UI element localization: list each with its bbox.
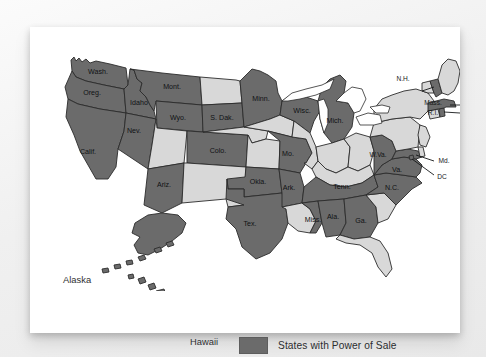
label-va: Va. — [392, 166, 402, 174]
map-legend: States with Power of Sale — [239, 337, 397, 354]
state-nj[interactable] — [418, 125, 430, 147]
label-wash: Wash. — [88, 68, 108, 76]
us-map-container: Wash. Oreg. Idaho Mont. Wyo. Calif. Nev.… — [30, 27, 460, 291]
label-mo: Mo. — [282, 150, 294, 158]
label-ariz: Ariz. — [157, 181, 171, 189]
figure-card-inner: Wash. Oreg. Idaho Mont. Wyo. Calif. Nev.… — [30, 27, 460, 333]
label-miss: Miss. — [305, 216, 322, 224]
us-choropleth-map: Wash. Oreg. Idaho Mont. Wyo. Calif. Nev.… — [30, 27, 460, 291]
label-oreg: Oreg. — [83, 89, 101, 97]
figure-card: Wash. Oreg. Idaho Mont. Wyo. Calif. Nev.… — [30, 27, 460, 333]
label-mass: Mass. — [424, 99, 442, 106]
label-ala: Ala. — [327, 213, 339, 221]
legend-swatch-icon — [239, 337, 268, 354]
label-wisc: Wisc. — [293, 107, 310, 115]
label-md: Md. — [439, 157, 450, 164]
label-ga: Ga. — [355, 217, 366, 225]
alaska-inset-label: Alaska — [63, 274, 91, 285]
lake-ontario — [370, 105, 390, 113]
leader-line-ri — [444, 112, 460, 113]
label-ark: Ark. — [283, 184, 296, 192]
label-minn: Minn. — [252, 95, 269, 103]
hawaii-islands — [128, 274, 173, 291]
lake-erie-ontario — [356, 113, 382, 125]
state-nd[interactable] — [200, 77, 242, 105]
label-mont: Mont. — [163, 83, 181, 91]
state-fl[interactable] — [336, 235, 392, 277]
label-calif: Calif. — [80, 148, 96, 156]
label-okla: Okla. — [250, 178, 267, 186]
label-dc: DC — [437, 173, 447, 180]
label-tex: Tex. — [243, 220, 256, 228]
legend-label: States with Power of Sale — [278, 340, 397, 351]
label-colo: Colo. — [210, 147, 227, 155]
label-ri: R.I. — [428, 109, 438, 116]
label-mich: Mich. — [327, 117, 344, 125]
label-tenn: Tenn. — [333, 183, 350, 191]
label-wva: W.Va. — [369, 151, 386, 158]
state-dc[interactable] — [409, 155, 414, 160]
label-nc: N.C. — [385, 184, 399, 192]
label-nev: Nev. — [127, 127, 141, 135]
state-ri[interactable] — [439, 108, 445, 117]
label-nh: N.H. — [396, 75, 409, 82]
label-idaho: Idaho — [130, 99, 148, 107]
label-wyo: Wyo. — [170, 114, 186, 122]
hawaii-inset-label: Hawaii — [190, 336, 218, 347]
state-me[interactable] — [438, 59, 460, 95]
label-sdak: S. Dak. — [210, 114, 233, 122]
